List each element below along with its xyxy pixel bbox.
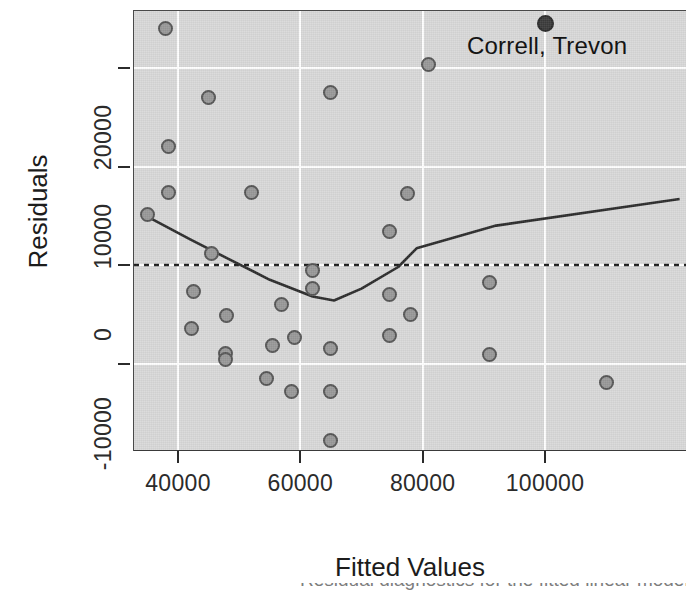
data-point[interactable]: [284, 384, 299, 399]
y-axis-title: Residuals: [23, 112, 54, 312]
data-point[interactable]: [403, 307, 418, 322]
x-tick-label-100000: 100000: [455, 470, 635, 497]
x-axis-title: Fitted Values: [134, 552, 686, 583]
data-point[interactable]: [244, 185, 259, 200]
data-point[interactable]: [382, 328, 397, 343]
clipped-caption-text: Residual diagnostics for the fitted line…: [300, 583, 686, 589]
data-point[interactable]: [599, 375, 614, 390]
data-point[interactable]: [161, 185, 176, 200]
data-point[interactable]: [204, 246, 219, 261]
x-tick-60000: [299, 451, 301, 463]
y-tick--10000: [118, 363, 130, 365]
data-point[interactable]: [323, 384, 338, 399]
data-point[interactable]: [184, 321, 199, 336]
x-tick-40000: [177, 451, 179, 463]
x-tick-100000: [544, 451, 546, 463]
plot-panel: [134, 11, 686, 450]
y-tick-0: [118, 264, 130, 266]
clipped-caption: Residual diagnostics for the fitted line…: [300, 583, 686, 590]
chart-canvas: 20000100000-10000400006000080000100000 R…: [0, 0, 686, 590]
y-tick-10000: [118, 166, 130, 168]
data-point[interactable]: [382, 224, 397, 239]
y-tick-20000: [118, 67, 130, 69]
highlighted-data-point[interactable]: [537, 15, 554, 32]
lowess-smoother-line: [147, 199, 679, 301]
data-point[interactable]: [186, 284, 201, 299]
data-point[interactable]: [259, 371, 274, 386]
data-point[interactable]: [400, 186, 415, 201]
data-point[interactable]: [382, 287, 397, 302]
highlight-label: Correll, Trevon: [467, 32, 627, 60]
x-tick-80000: [422, 451, 424, 463]
data-point[interactable]: [287, 330, 302, 345]
data-point[interactable]: [421, 57, 436, 72]
